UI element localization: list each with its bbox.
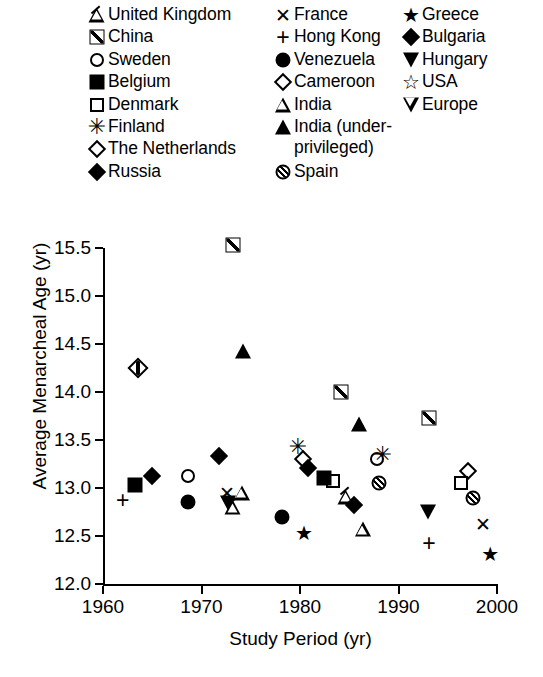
y-tick xyxy=(95,439,103,441)
legend-column-2: ✕France+Hong KongVenezuelaCameroonIndiaI… xyxy=(272,4,392,183)
star-fill-icon: ★ xyxy=(400,4,422,25)
legend-item-sweden: Sweden xyxy=(86,49,236,71)
diamond-open-icon xyxy=(272,71,294,92)
legend-item-europe: Europe xyxy=(400,94,487,116)
asterisk-icon: ✳ xyxy=(86,116,108,137)
diamond-open-icon xyxy=(86,138,108,159)
legend-label: Denmark xyxy=(108,94,178,115)
y-tick-label: 12.0 xyxy=(31,574,91,593)
legend-label: Europe xyxy=(422,94,478,115)
legend-item-belgium: Belgium xyxy=(86,71,236,93)
legend-item-france: ✕France xyxy=(272,4,392,26)
tri-hatch-icon xyxy=(86,4,108,25)
star-open-icon: ☆ xyxy=(400,71,422,92)
x-tick xyxy=(398,586,400,594)
circle-open-icon xyxy=(86,49,108,70)
legend-item-hong: +Hong Kong xyxy=(272,26,392,48)
tri-fill-icon xyxy=(272,116,294,137)
x-tick-label: 1960 xyxy=(68,597,138,616)
plus-icon: + xyxy=(272,26,294,47)
legend-label: United Kingdom xyxy=(108,4,231,25)
legend-label: France xyxy=(294,4,348,25)
legend-item-spain: Spain xyxy=(272,161,392,183)
legend: United KingdomChinaSwedenBelgiumDenmark✳… xyxy=(0,0,543,185)
x-tick xyxy=(496,586,498,594)
x-tick-label: 1970 xyxy=(167,597,237,616)
legend-item-india: India xyxy=(272,94,392,116)
legend-item-greece: ★Greece xyxy=(400,4,487,26)
legend-item-venezuela: Venezuela xyxy=(272,49,392,71)
legend-label: China xyxy=(108,26,153,47)
legend-label: Finland xyxy=(108,116,165,137)
legend-label: Hungary xyxy=(422,49,487,70)
circle-slash-icon xyxy=(272,161,294,182)
y-tick xyxy=(95,343,103,345)
y-tick xyxy=(95,247,103,249)
y-axis-title: Average Menarcheal Age (yr) xyxy=(29,196,51,536)
x-tick xyxy=(299,586,301,594)
legend-label: India xyxy=(294,94,331,115)
legend-item-denmark: Denmark xyxy=(86,94,236,116)
legend-item-india: India (under- privileged) xyxy=(272,116,392,161)
diamond-fill-icon xyxy=(86,161,108,182)
x-tick-label: 2000 xyxy=(462,597,532,616)
diamond-fill-icon xyxy=(400,26,422,47)
legend-item-united: United Kingdom xyxy=(86,4,236,26)
tridown-open-icon xyxy=(400,94,422,115)
legend-label: Hong Kong xyxy=(294,26,381,47)
square-open-icon xyxy=(86,94,108,115)
legend-label: India (under- privileged) xyxy=(294,116,392,158)
y-tick xyxy=(95,583,103,585)
legend-label: Greece xyxy=(422,4,479,25)
legend-item-russia: Russia xyxy=(86,161,236,183)
legend-label: Bulgaria xyxy=(422,26,485,47)
legend-label: USA xyxy=(422,71,458,92)
y-tick xyxy=(95,535,103,537)
legend-item-cameroon: Cameroon xyxy=(272,71,392,93)
x-tick xyxy=(102,586,104,594)
x-axis-title: Study Period (yr) xyxy=(103,628,498,650)
legend-label: The Netherlands xyxy=(108,138,236,159)
y-tick xyxy=(95,295,103,297)
legend-label: Cameroon xyxy=(294,71,375,92)
y-tick xyxy=(95,487,103,489)
square-hatch-icon xyxy=(86,26,108,47)
legend-label: Venezuela xyxy=(294,49,375,70)
legend-item-finland: ✳Finland xyxy=(86,116,236,138)
legend-column-1: United KingdomChinaSwedenBelgiumDenmark✳… xyxy=(86,4,236,183)
legend-item-bulgaria: Bulgaria xyxy=(400,26,487,48)
tri-open-icon xyxy=(272,94,294,115)
tridown-fill-icon xyxy=(400,49,422,70)
scatter-plot: 12.012.513.013.514.014.515.015.5 1960197… xyxy=(0,185,543,677)
x-tick xyxy=(201,586,203,594)
legend-item-usa: ☆USA xyxy=(400,71,487,93)
legend-item-china: China xyxy=(86,26,236,48)
square-fill-icon xyxy=(86,71,108,92)
x-tick-label: 1990 xyxy=(364,597,434,616)
legend-label: Spain xyxy=(294,161,338,182)
y-axis-line xyxy=(103,248,105,586)
legend-item-hungary: Hungary xyxy=(400,49,487,71)
circle-fill-icon xyxy=(272,49,294,70)
legend-label: Sweden xyxy=(108,49,171,70)
x-icon: ✕ xyxy=(272,4,294,25)
legend-item-the: The Netherlands xyxy=(86,138,236,160)
x-tick-label: 1980 xyxy=(265,597,335,616)
y-tick xyxy=(95,391,103,393)
legend-label: Belgium xyxy=(108,71,171,92)
legend-column-3: ★GreeceBulgariaHungary☆USAEurope xyxy=(400,4,487,116)
legend-label: Russia xyxy=(108,161,161,182)
